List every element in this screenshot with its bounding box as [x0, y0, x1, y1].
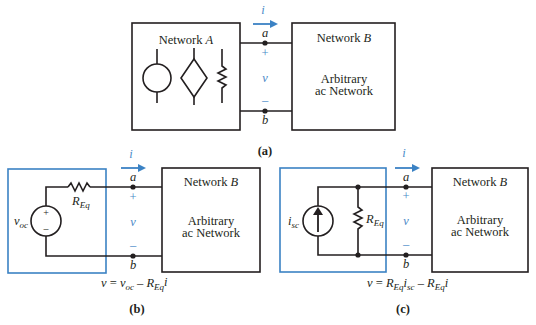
terminal-a-label: a [403, 170, 409, 184]
minus-sign: – [402, 237, 410, 251]
network-b-line2: ac Network [315, 84, 374, 98]
req-label: REq [365, 212, 384, 228]
terminal-a-label: a [130, 170, 136, 184]
panel-c: isc REq a b + v – i Network B Arbitrary … [280, 146, 528, 316]
wire-top-left [46, 187, 68, 206]
caption-a: (a) [258, 144, 273, 158]
plus-sign: + [261, 46, 268, 60]
resistor-icon [354, 187, 362, 255]
network-b-line2: ac Network [451, 225, 510, 239]
terminal-b-label: b [262, 113, 268, 127]
wire-b [318, 236, 432, 255]
terminal-a-dot [262, 40, 267, 45]
resistor-icon [68, 183, 90, 191]
terminal-b-label: b [130, 258, 136, 272]
voltage-label: v [130, 215, 136, 229]
equation-c: v = REqisc – REqi [367, 276, 449, 292]
network-b-line2: ac Network [182, 226, 241, 240]
current-label: i [261, 3, 265, 17]
source-arrowhead-icon [313, 207, 323, 215]
voc-label: voc [14, 214, 28, 230]
caption-c: (c) [396, 302, 410, 316]
source-plus: + [43, 207, 49, 218]
wire-b [46, 236, 162, 256]
network-b-title: Network B [453, 175, 508, 189]
resistor-icon [218, 49, 226, 103]
terminal-b-label: b [403, 257, 409, 271]
current-label: i [402, 146, 406, 160]
panel-a: Network A a b + v – i Networ [132, 3, 395, 158]
isc-label: isc [288, 214, 299, 230]
minus-sign: – [129, 238, 137, 252]
network-b-title: Network B [184, 175, 239, 189]
voltage-label: v [403, 214, 409, 228]
minus-sign: – [261, 93, 269, 107]
equation-b: v = voc – REqi [101, 275, 168, 292]
panel-b: + – voc REq a b + v – i Network B Arbitr… [8, 147, 260, 316]
node-dot-top [355, 184, 360, 189]
node-dot-bottom [355, 252, 360, 257]
plus-sign: + [129, 190, 136, 204]
source-minus: – [43, 223, 50, 234]
network-b-title: Network B [317, 31, 372, 45]
plus-sign: + [402, 189, 409, 203]
wire-a [318, 187, 432, 206]
terminal-a-label: a [262, 26, 268, 40]
circuit-figure: Network A a b + v – i Networ [0, 0, 536, 325]
terminal-a-dot [130, 184, 135, 189]
req-label: REq [71, 194, 90, 210]
voltage-label: v [262, 71, 268, 85]
caption-b: (b) [129, 302, 144, 316]
current-label: i [129, 147, 133, 161]
dependent-source-icon [181, 48, 207, 105]
network-a-title: Network A [159, 33, 214, 47]
independent-source-icon [143, 49, 171, 103]
